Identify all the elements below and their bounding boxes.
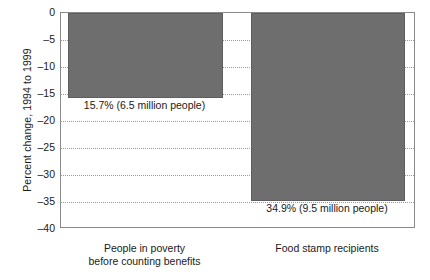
y-axis-tick-label: –10 [15, 61, 55, 71]
y-axis-tick-label: –35 [15, 196, 55, 206]
y-axis-tick-label: –30 [15, 169, 55, 179]
bar-chart: Percent change, 1994 to 1999 0–5–10–15–2… [0, 0, 430, 280]
bar-value-label: 15.7% (6.5 million people) [67, 99, 222, 111]
y-axis-tick-label: –5 [15, 34, 55, 44]
bar-value-label: 34.9% (9.5 million people) [250, 202, 404, 214]
y-axis-tick-label: –20 [15, 115, 55, 125]
x-axis-category-label-line: before counting benefits [47, 255, 242, 268]
x-axis-category-label: People in povertybefore counting benefit… [47, 242, 242, 267]
x-axis-category-label: Food stamp recipients [230, 242, 424, 255]
bar [251, 13, 405, 201]
plot-area [60, 12, 415, 228]
y-axis-tick-label: –15 [15, 88, 55, 98]
y-axis-tick-label: –25 [15, 142, 55, 152]
x-axis-category-label-line: Food stamp recipients [230, 242, 424, 255]
x-axis-category-label-line: People in poverty [47, 242, 242, 255]
y-axis-tick-label: –40 [15, 223, 55, 233]
y-axis-tick-label: 0 [15, 7, 55, 17]
bar [68, 13, 223, 98]
